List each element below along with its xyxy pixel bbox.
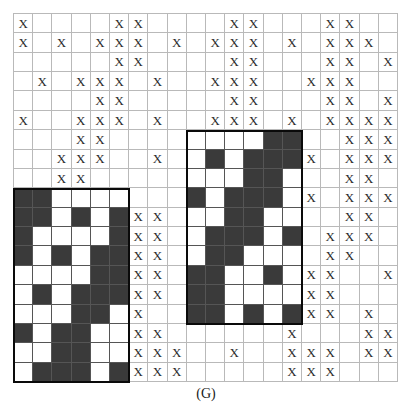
cell-mark-x: X xyxy=(287,36,296,49)
grid-cell-marked: X xyxy=(340,14,359,33)
grid-cell-marked: X xyxy=(379,266,398,285)
grid-cell-marked: X xyxy=(360,188,379,207)
grid-cell xyxy=(206,343,225,362)
grid-cell-marked: X xyxy=(340,227,359,246)
grid-cell xyxy=(302,324,321,343)
region-cell-dark xyxy=(187,285,206,304)
grid-cell xyxy=(91,169,110,188)
grid-cell xyxy=(379,33,398,52)
region-cell-light xyxy=(283,208,302,227)
grid-cell xyxy=(244,363,263,382)
grid-cell xyxy=(206,324,225,343)
cell-mark-x: X xyxy=(326,288,335,301)
cell-mark-x: X xyxy=(134,249,143,262)
cell-mark-x: X xyxy=(364,346,373,359)
cell-mark-x: X xyxy=(306,75,315,88)
cell-mark-x: X xyxy=(153,268,162,281)
grid-cell-marked: X xyxy=(321,343,340,362)
region-cell-dark xyxy=(225,246,244,265)
cell-mark-x: X xyxy=(95,152,104,165)
cell-mark-x: X xyxy=(326,114,335,127)
grid-cell-marked: X xyxy=(321,285,340,304)
region-cell-light xyxy=(206,130,225,149)
grid-cell xyxy=(264,91,283,110)
region-cell-light xyxy=(33,266,52,285)
grid-cell xyxy=(360,363,379,382)
grid-cell-marked: X xyxy=(379,324,398,343)
region-cell-light xyxy=(91,208,110,227)
cell-mark-x: X xyxy=(249,55,258,68)
grid-cell-marked: X xyxy=(360,208,379,227)
grid-cell xyxy=(264,14,283,33)
cell-mark-x: X xyxy=(364,172,373,185)
region-cell-light xyxy=(187,246,206,265)
cell-mark-x: X xyxy=(326,365,335,378)
grid-cell xyxy=(33,130,52,149)
region-cell-light xyxy=(33,343,52,362)
grid-cell xyxy=(302,33,321,52)
grid-cell-marked: X xyxy=(110,14,129,33)
cell-mark-x: X xyxy=(364,230,373,243)
grid-cell xyxy=(129,111,148,130)
cell-mark-x: X xyxy=(172,346,181,359)
grid-cell xyxy=(340,343,359,362)
cell-mark-x: X xyxy=(306,288,315,301)
grid-cell xyxy=(110,130,129,149)
grid-cell-marked: X xyxy=(244,111,263,130)
grid-cell-marked: X xyxy=(206,72,225,91)
region-cell-dark xyxy=(110,246,129,265)
region-cell-light xyxy=(72,227,91,246)
grid-cell-marked: X xyxy=(302,363,321,382)
grid-cell xyxy=(379,363,398,382)
grid-cell xyxy=(148,130,167,149)
grid-cell-marked: X xyxy=(360,324,379,343)
region-cell-dark xyxy=(110,363,129,382)
region-cell-dark xyxy=(52,363,71,382)
cell-mark-x: X xyxy=(230,55,239,68)
grid-cell xyxy=(72,14,91,33)
region-cell-dark xyxy=(91,266,110,285)
grid-cell-marked: X xyxy=(129,343,148,362)
region-cell-dark xyxy=(225,227,244,246)
cell-mark-x: X xyxy=(153,114,162,127)
cell-mark-x: X xyxy=(230,94,239,107)
cell-mark-x: X xyxy=(306,365,315,378)
grid-cell-marked: X xyxy=(129,363,148,382)
region-cell-light xyxy=(244,285,263,304)
grid-cell-marked: X xyxy=(148,208,167,227)
grid-cell xyxy=(283,14,302,33)
grid-cell-marked: X xyxy=(302,188,321,207)
grid-cell-marked: X xyxy=(129,324,148,343)
grid-cell-marked: X xyxy=(225,33,244,52)
cell-mark-x: X xyxy=(326,55,335,68)
region-cell-light xyxy=(225,305,244,324)
cell-mark-x: X xyxy=(210,75,219,88)
cell-mark-x: X xyxy=(57,152,66,165)
region-cell-light xyxy=(110,188,129,207)
figure-panel: XXXXXXXXXXXXXXXXXXXXXXXXXXXXXXXXXXXXXXXX… xyxy=(0,0,412,409)
cell-mark-x: X xyxy=(364,210,373,223)
grid-cell-marked: X xyxy=(360,33,379,52)
region-cell-dark xyxy=(187,266,206,285)
grid-cell-marked: X xyxy=(244,53,263,72)
cell-mark-x: X xyxy=(249,94,258,107)
cell-mark-x: X xyxy=(326,230,335,243)
cell-mark-x: X xyxy=(345,36,354,49)
grid-cell xyxy=(168,246,187,265)
region-cell-dark xyxy=(14,208,33,227)
grid-cell-marked: X xyxy=(91,72,110,91)
region-cell-dark xyxy=(14,246,33,265)
grid-cell xyxy=(264,343,283,362)
cell-grid: XXXXXXXXXXXXXXXXXXXXXXXXXXXXXXXXXXXXXXXX… xyxy=(13,13,398,382)
region-cell-light xyxy=(33,227,52,246)
cell-mark-x: X xyxy=(326,17,335,30)
region-cell-light xyxy=(225,130,244,149)
region-cell-dark xyxy=(206,150,225,169)
grid-cell xyxy=(340,266,359,285)
grid-cell-marked: X xyxy=(225,343,244,362)
grid-cell xyxy=(321,169,340,188)
cell-mark-x: X xyxy=(134,55,143,68)
region-cell-dark xyxy=(72,305,91,324)
grid-cell xyxy=(321,130,340,149)
grid-cell-marked: X xyxy=(33,72,52,91)
